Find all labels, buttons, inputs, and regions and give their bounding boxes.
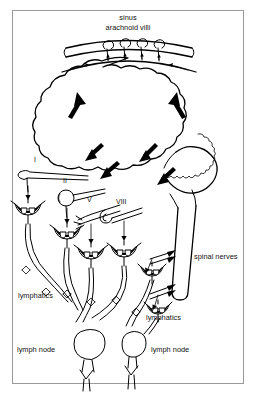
flow-arrow-down-right-1: [139, 143, 158, 162]
roman-numeral-I: I: [34, 156, 36, 163]
brainstem-spinal-cord: [170, 190, 196, 300]
cerebellum-outline: [164, 134, 217, 193]
lymphatic-rosette: [107, 241, 141, 266]
lymph-node-right: lymph node: [122, 332, 189, 390]
cranial-nerve-VIII: VIII: [100, 198, 142, 241]
label-lymph-node-left: lymph node: [17, 345, 55, 354]
label-lymph-node-right: lymph node: [151, 345, 189, 354]
roman-numeral-V: V: [87, 196, 92, 203]
sinus-vessel: [64, 41, 194, 58]
lymphatic-rosette: [74, 243, 108, 268]
label-sinus: sinus: [119, 13, 137, 22]
flow-arrow-up-left: [68, 92, 86, 119]
cerebrum-outline: [33, 57, 187, 170]
label-spinal-nerves: spinal nerves: [194, 252, 238, 261]
roman-numeral-VIII: VIII: [116, 198, 127, 205]
cranial-nerve-V: V: [74, 196, 120, 244]
label-lymphatics-right: lymphatics: [146, 313, 181, 322]
flow-arrow-down-left-1: [85, 143, 104, 161]
lymphatic-vessels-left: lymphatics: [18, 224, 127, 322]
cranial-nerve-I: I: [18, 156, 88, 200]
roman-numeral-II: II: [63, 177, 67, 184]
lymph-node-left: lymph node: [17, 330, 105, 392]
cranial-nerve-II: II: [58, 177, 105, 224]
csf-flow-arrows: [68, 92, 186, 185]
figure-root: sinus arachnoid villi: [0, 0, 257, 397]
flow-arrow-up-right: [168, 92, 186, 119]
eyeball: [58, 190, 74, 206]
flow-arrow-down-right-2: [157, 167, 176, 185]
lymphatic-rosette: [50, 223, 84, 248]
lymphatic-rosette: [11, 199, 45, 224]
label-arachnoid-villi: arachnoid villi: [106, 23, 151, 32]
lymphatic-rosette: [138, 262, 166, 284]
csf-lymphatic-drainage-diagram: sinus arachnoid villi: [0, 0, 257, 397]
label-lymphatics-left: lymphatics: [18, 291, 53, 300]
